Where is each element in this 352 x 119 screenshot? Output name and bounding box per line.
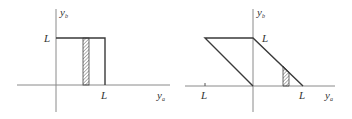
diagram-canvas: yb L L ya yb L L L ya bbox=[0, 0, 352, 119]
left-x-axis-label: ya bbox=[156, 89, 165, 102]
right-y-axis-label: yb bbox=[256, 6, 265, 19]
left-hatched-strip bbox=[83, 38, 89, 85]
right-x-axis-label: ya bbox=[324, 89, 333, 102]
left-square-region bbox=[56, 38, 105, 85]
right-y-tick-label: L bbox=[261, 32, 268, 44]
right-pos-x-tick-label: L bbox=[298, 89, 305, 101]
left-panel: yb L L ya bbox=[17, 6, 170, 112]
left-x-tick-label: L bbox=[100, 89, 107, 101]
left-y-axis-label: yb bbox=[59, 6, 68, 19]
left-y-tick-label: L bbox=[43, 32, 50, 44]
right-panel: yb L L L ya bbox=[185, 6, 335, 112]
right-neg-x-tick-label: L bbox=[200, 89, 207, 101]
